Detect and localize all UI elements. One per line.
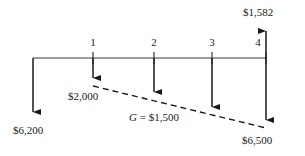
gradient-equals-sign: = [137,111,149,123]
amount-label-6200: $6,200 [13,124,43,136]
gradient-dashed-line [93,86,266,128]
amount-label-2000: $2,000 [68,90,98,102]
gradient-value: $1,500 [149,111,179,123]
amount-label-6500: $6,500 [242,134,272,146]
gradient-symbol: G [129,111,137,123]
period-label-2: 2 [146,36,162,48]
gradient-label: G = $1,500 [129,111,179,123]
cash-flow-diagram: 1 2 3 4 $1,582 $2,000 $6,200 $6,500 G = … [0,0,305,156]
amount-label-1582: $1,582 [243,6,273,18]
cash-flow-svg [0,0,305,156]
period-label-3: 3 [204,36,220,48]
period-label-4: 4 [250,36,266,48]
period-label-1: 1 [85,36,101,48]
